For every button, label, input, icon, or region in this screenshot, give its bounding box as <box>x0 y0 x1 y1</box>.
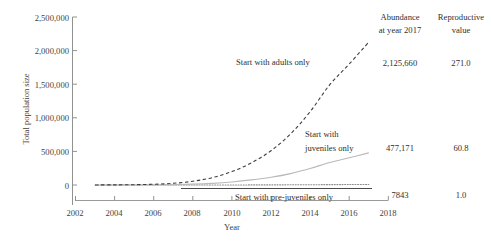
annotation-juveniles-line2: juveniles only <box>305 143 353 153</box>
table-header-reproductive-line2: value <box>452 25 471 35</box>
table-header-abundance-line1: Abundance <box>380 12 419 22</box>
table-cell-abundance-adults: 2,125,660 <box>383 58 417 68</box>
series-paths <box>95 42 369 185</box>
table-cell-abundance-prejuveniles: 7843 <box>391 190 408 200</box>
table-cell-reproductive-adults: 271.0 <box>451 58 470 68</box>
table-header-abundance-line2: at year 2017 <box>379 25 421 35</box>
figure-container: Total population size 2,500,000 2,000,00… <box>0 0 491 244</box>
annotation-prejuveniles: Start with pre-juveniles only <box>235 192 333 202</box>
table-cell-abundance-juveniles: 477,171 <box>386 143 414 153</box>
table-cell-reproductive-prejuveniles: 1.0 <box>456 190 467 200</box>
annotation-juveniles-line1: Start with <box>305 129 339 139</box>
series-line-juveniles <box>95 153 369 185</box>
annotation-adults: Start with adults only <box>236 57 310 67</box>
table-header-reproductive-line1: Reproductive <box>438 12 484 22</box>
table-cell-reproductive-juveniles: 60.8 <box>453 143 468 153</box>
plot-area <box>0 0 491 244</box>
